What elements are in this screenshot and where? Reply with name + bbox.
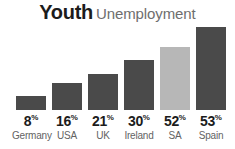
- percent-sign-spain: %: [215, 113, 222, 122]
- category-label-ireland: Ireland: [120, 130, 158, 142]
- category-label-uk: UK: [84, 130, 122, 142]
- category-label-spain: Spain: [192, 130, 230, 142]
- value-number-usa: 16: [56, 113, 71, 129]
- percent-sign-usa: %: [71, 113, 78, 122]
- label-group-sa: 52% SA: [156, 110, 194, 142]
- percent-sign-uk: %: [107, 113, 114, 122]
- chart-title-primary: Youth: [39, 1, 93, 23]
- bar-ireland: [124, 60, 154, 110]
- axis-labels: 8% Germany 16% USA 21% UK 30% Ireland 52…: [0, 110, 235, 149]
- value-number-uk: 21: [92, 113, 107, 129]
- label-group-germany: 8% Germany: [12, 110, 50, 142]
- percent-sign-germany: %: [31, 113, 38, 122]
- label-group-uk: 21% UK: [84, 110, 122, 142]
- percent-sign-ireland: %: [143, 113, 150, 122]
- value-label-sa: 52%: [156, 110, 194, 129]
- label-group-usa: 16% USA: [48, 110, 86, 142]
- youth-unemployment-infographic: YouthUnemployment 8% Germany 16% USA: [0, 0, 235, 149]
- value-label-usa: 16%: [48, 110, 86, 129]
- bar-chart-plot-area: [0, 22, 235, 110]
- bar-uk: [88, 74, 118, 110]
- percent-sign-sa: %: [179, 113, 186, 122]
- bar-germany: [16, 96, 46, 110]
- bar-usa: [52, 83, 82, 110]
- value-label-spain: 53%: [192, 110, 230, 129]
- category-label-sa: SA: [156, 130, 194, 142]
- value-number-sa: 52: [164, 113, 179, 129]
- value-number-spain: 53: [200, 113, 215, 129]
- value-label-germany: 8%: [12, 110, 50, 129]
- value-label-uk: 21%: [84, 110, 122, 129]
- bar-spain: [196, 27, 226, 110]
- value-number-ireland: 30: [128, 113, 143, 129]
- value-label-ireland: 30%: [120, 110, 158, 129]
- chart-title-secondary: Unemployment: [96, 5, 196, 22]
- label-group-spain: 53% Spain: [192, 110, 230, 142]
- category-label-usa: USA: [48, 130, 86, 142]
- chart-title: YouthUnemployment: [0, 2, 235, 22]
- label-group-ireland: 30% Ireland: [120, 110, 158, 142]
- bar-sa: [160, 47, 190, 110]
- category-label-germany: Germany: [12, 130, 50, 142]
